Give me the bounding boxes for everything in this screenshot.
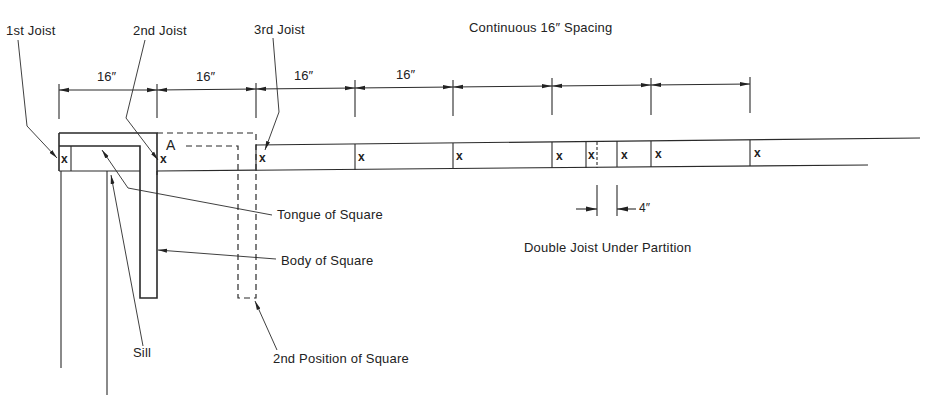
dimension-16in-1: 16″ xyxy=(97,69,116,84)
joist-mark: x xyxy=(259,152,266,164)
label-body-of-square: Body of Square xyxy=(281,253,373,268)
partition-gap xyxy=(576,185,636,216)
framing-square-second-position xyxy=(157,133,256,298)
joist-mark: x xyxy=(754,147,761,159)
label-tongue-of-square: Tongue of Square xyxy=(277,207,383,222)
joist-mark: x xyxy=(456,150,463,162)
sill-band xyxy=(59,138,920,171)
label-double-joist: Double Joist Under Partition xyxy=(524,240,691,255)
joist-layout-drawing xyxy=(0,0,928,398)
joist-mark: x xyxy=(588,149,595,161)
joist-mark: x xyxy=(358,151,365,163)
framing-square xyxy=(59,133,157,298)
dimension-16in-2: 16″ xyxy=(196,69,215,84)
label-1st-joist: 1st Joist xyxy=(6,23,55,38)
joist-mark: x xyxy=(655,148,662,160)
joist-mark: x xyxy=(621,149,628,161)
label-2nd-joist: 2nd Joist xyxy=(133,23,187,38)
dimension-ticks xyxy=(59,77,750,119)
foundation-lines xyxy=(61,171,157,395)
label-continuous-spacing: Continuous 16″ Spacing xyxy=(469,20,612,35)
label-sill: Sill xyxy=(133,345,151,360)
label-point-a: A xyxy=(166,137,176,153)
label-3rd-joist: 3rd Joist xyxy=(254,22,305,37)
joist-mark: x xyxy=(556,150,563,162)
joist-mark: x xyxy=(160,153,167,165)
leaders xyxy=(18,38,279,350)
joist-mark: x xyxy=(61,153,68,165)
dimension-16in-4: 16″ xyxy=(396,67,415,82)
label-partition-gap: 4″ xyxy=(639,201,650,215)
label-2nd-position-of-square: 2nd Position of Square xyxy=(273,351,409,366)
dimension-16in-3: 16″ xyxy=(294,68,313,83)
dimension-line xyxy=(59,84,750,90)
